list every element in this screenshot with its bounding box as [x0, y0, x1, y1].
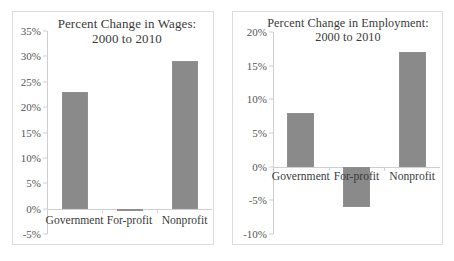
y-axis-tick	[43, 107, 47, 108]
y-axis-label: 5%	[252, 127, 267, 139]
x-axis-category-label: Nonprofit	[389, 170, 435, 183]
y-axis-tick	[269, 234, 273, 235]
x-axis-category-label: Nonprofit	[162, 214, 208, 227]
bar-for-profit	[117, 209, 143, 212]
y-axis-tick	[43, 183, 47, 184]
x-axis-category-label: For-profit	[107, 214, 153, 227]
bar-government	[287, 113, 314, 167]
chart-title-line1: Percent Change in Wages:	[58, 16, 197, 31]
y-axis-tick	[269, 99, 273, 100]
y-axis-tick	[269, 200, 273, 201]
x-axis-category-label: Government	[272, 170, 330, 183]
y-axis-label: 10%	[21, 152, 41, 164]
y-axis-line	[273, 32, 274, 234]
bar-nonprofit	[172, 61, 198, 208]
y-axis-label: 15%	[21, 127, 41, 139]
y-axis-label: 0%	[252, 161, 267, 173]
x-axis-tick	[384, 167, 385, 171]
x-axis-category-label: For-profit	[334, 170, 380, 183]
y-axis-tick	[269, 32, 273, 33]
chart-title-line2: 2000 to 2010	[45, 31, 209, 46]
bar-nonprofit	[399, 52, 426, 166]
chart-title-line1: Percent Change in Employment:	[267, 16, 429, 30]
y-axis-tick	[43, 56, 47, 57]
y-axis-label: 0%	[26, 203, 41, 215]
chart-title-employment: Percent Change in Employment: 2000 to 20…	[258, 16, 438, 45]
y-axis-label: 5%	[26, 177, 41, 189]
y-axis-label: 30%	[21, 50, 41, 62]
chart-title-line2: 2000 to 2010	[258, 30, 438, 44]
y-axis-label: 10%	[247, 93, 267, 105]
y-axis-label: 35%	[21, 25, 41, 37]
y-axis-tick	[43, 157, 47, 158]
y-axis-label: 15%	[247, 60, 267, 72]
y-axis-label: -5%	[23, 228, 41, 240]
y-axis-label: 25%	[21, 76, 41, 88]
y-axis-tick	[43, 81, 47, 82]
y-axis-label: 20%	[21, 101, 41, 113]
y-axis-line	[47, 31, 48, 234]
chart-title-wages: Percent Change in Wages: 2000 to 2010	[45, 16, 209, 47]
y-axis-tick	[269, 133, 273, 134]
chart-panel-wages: Percent Change in Wages: 2000 to 2010 35…	[12, 11, 214, 245]
x-axis-tick	[157, 209, 158, 213]
bar-government	[62, 92, 88, 209]
y-axis-label: 20%	[247, 26, 267, 38]
y-axis-tick	[43, 31, 47, 32]
x-axis-category-label: Government	[46, 214, 104, 227]
y-axis-label: -10%	[243, 228, 267, 240]
y-axis-tick	[269, 65, 273, 66]
x-axis-tick	[102, 209, 103, 213]
figure-container: Percent Change in Wages: 2000 to 2010 35…	[0, 0, 454, 261]
plot-area-wages: Percent Change in Wages: 2000 to 2010 35…	[13, 12, 213, 244]
y-axis-tick	[43, 132, 47, 133]
chart-panel-employment: Percent Change in Employment: 2000 to 20…	[232, 11, 443, 245]
y-axis-label: -5%	[249, 194, 267, 206]
plot-area-employment: Percent Change in Employment: 2000 to 20…	[233, 12, 442, 244]
y-axis-tick	[43, 234, 47, 235]
